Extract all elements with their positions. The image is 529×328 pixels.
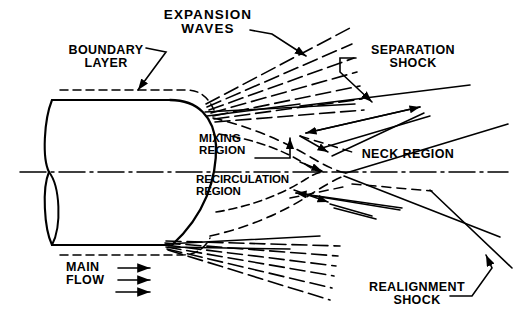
label-boundary-layer: BOUNDARY LAYER	[56, 44, 156, 70]
label-realignment-shock: REALIGNMENT SHOCK	[357, 281, 477, 307]
expansion-waves-bottom	[165, 241, 340, 300]
label-expansion-waves: EXPANSION WAVES	[148, 8, 268, 36]
label-main-flow: MAIN FLOW	[66, 261, 126, 287]
label-neck-region: NECK REGION	[348, 148, 468, 161]
neck-region-boundary-upper	[300, 136, 352, 152]
recirculation-arrow-icon	[300, 162, 322, 171]
label-mixing-region: MIXING REGION	[199, 133, 261, 156]
label-recirculation-region: RECIRCULATION REGION	[196, 174, 306, 197]
base-flow-diagram: EXPANSION WAVES BOUNDARY LAYER SEPARATIO…	[0, 0, 529, 328]
realignment-shock-line	[344, 176, 512, 268]
label-separation-shock: SEPARATION SHOCK	[358, 44, 468, 70]
